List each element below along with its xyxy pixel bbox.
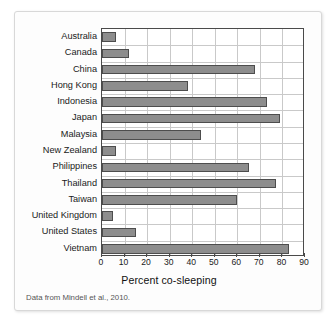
category-label: Philippines: [17, 158, 101, 174]
figure-card: AustraliaCanadaChinaHong KongIndonesiaJa…: [14, 11, 322, 311]
bar: [102, 244, 289, 254]
x-axis-tick-label: 20: [141, 257, 151, 267]
bar-row: [102, 143, 303, 159]
category-label: Taiwan: [17, 191, 101, 207]
category-label: Malaysia: [17, 126, 101, 142]
x-axis-tick-label: 70: [254, 257, 264, 267]
bar: [102, 211, 113, 221]
category-label: Vietnam: [17, 240, 101, 256]
bar-row: [102, 192, 303, 208]
x-axis-tick-label: 40: [186, 257, 196, 267]
x-axis-tick-label: 30: [164, 257, 174, 267]
bar: [102, 195, 237, 205]
x-axis-title: Percent co-sleeping: [15, 274, 323, 286]
category-label: Thailand: [17, 175, 101, 191]
bar: [102, 163, 249, 173]
bar: [102, 81, 188, 91]
category-label: Japan: [17, 109, 101, 125]
bar: [102, 49, 129, 59]
category-label: Indonesia: [17, 93, 101, 109]
category-label: Australia: [17, 28, 101, 44]
x-axis-tick-label: 90: [299, 257, 309, 267]
bar: [102, 228, 136, 238]
x-axis-tick-label: 10: [119, 257, 129, 267]
category-label: Hong Kong: [17, 77, 101, 93]
bar: [102, 114, 280, 124]
category-label: Canada: [17, 44, 101, 60]
bar: [102, 97, 267, 107]
category-label: United Kingdom: [17, 207, 101, 223]
x-axis-tick-label: 0: [99, 257, 104, 267]
x-axis-tick-label: 80: [277, 257, 287, 267]
bar: [102, 32, 116, 42]
bar-row: [102, 110, 303, 126]
category-label: New Zealand: [17, 142, 101, 158]
source-note: Data from Mindell et al., 2010.: [26, 293, 130, 302]
x-axis-tick-label: 50: [209, 257, 219, 267]
bar: [102, 65, 255, 75]
bar: [102, 179, 276, 189]
bar-row: [102, 78, 303, 94]
bar-row: [102, 29, 303, 45]
plot-area: [101, 28, 304, 256]
bar-row: [102, 241, 303, 257]
bar-row: [102, 224, 303, 240]
x-axis-tick-label: 60: [232, 257, 242, 267]
bar-row: [102, 208, 303, 224]
bar-row: [102, 62, 303, 78]
bar: [102, 146, 116, 156]
bar-row: [102, 94, 303, 110]
category-label-column: AustraliaCanadaChinaHong KongIndonesiaJa…: [15, 28, 101, 256]
bar-row: [102, 176, 303, 192]
bar-row: [102, 45, 303, 61]
bar: [102, 130, 201, 140]
x-axis-tick-row: 0102030405060708090: [101, 257, 304, 271]
bar-row: [102, 127, 303, 143]
category-label: China: [17, 61, 101, 77]
bar-row: [102, 159, 303, 175]
category-label: United States: [17, 223, 101, 239]
plot-wrapper: AustraliaCanadaChinaHong KongIndonesiaJa…: [15, 12, 323, 267]
